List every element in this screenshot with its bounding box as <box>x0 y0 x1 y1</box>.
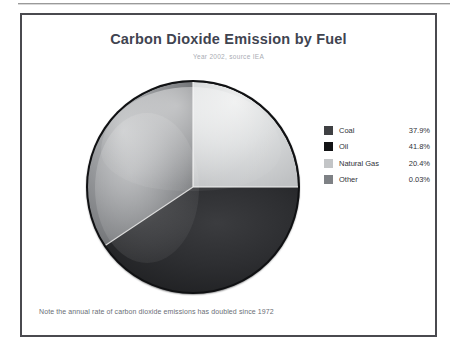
legend-swatch-coal <box>324 126 333 135</box>
pie-slice-natural-gas <box>193 82 298 187</box>
legend-swatch-natural-gas <box>324 159 333 168</box>
chart-subtitle: Year 2002, source IEA <box>22 53 435 60</box>
legend-swatch-oil <box>324 142 333 151</box>
legend-value-coal: 37.9% <box>409 126 430 135</box>
legend-row-coal: Coal 37.9% <box>324 122 430 139</box>
legend-row-natural-gas: Natural Gas 20.4% <box>324 155 430 172</box>
page-top-rule <box>18 3 450 4</box>
legend-label-other: Other <box>339 175 409 184</box>
legend-value-natural-gas: 20.4% <box>409 159 430 168</box>
legend-label-oil: Oil <box>339 142 409 151</box>
pie-chart <box>85 79 301 295</box>
chart-legend: Coal 37.9% Oil 41.8% Natural Gas 20.4% O… <box>324 122 430 188</box>
legend-label-coal: Coal <box>339 126 409 135</box>
pie-sectors <box>85 79 301 295</box>
legend-row-oil: Oil 41.8% <box>324 139 430 156</box>
legend-value-other: 0.03% <box>409 175 430 184</box>
page-title: Carbon Dioxide Emission by Fuel <box>22 31 435 47</box>
legend-label-natural-gas: Natural Gas <box>339 159 409 168</box>
slide-frame: Carbon Dioxide Emission by Fuel Year 200… <box>20 13 437 337</box>
legend-swatch-other <box>324 175 333 184</box>
chart-footnote: Note the annual rate of carbon dioxide e… <box>39 308 274 315</box>
legend-value-oil: 41.8% <box>409 142 430 151</box>
legend-row-other: Other 0.03% <box>324 172 430 189</box>
